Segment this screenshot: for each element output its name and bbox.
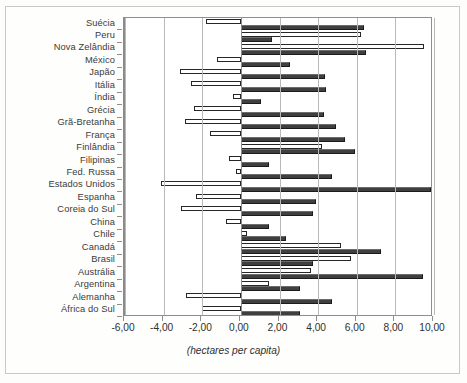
bar-serie-escura	[241, 62, 290, 67]
bar-serie-clara	[180, 69, 241, 74]
x-axis-title: (hectares per capita)	[0, 345, 467, 356]
bar-serie-clara	[181, 206, 241, 211]
y-axis-label: México	[85, 55, 115, 65]
y-tick-mark	[117, 67, 122, 68]
y-tick-mark	[117, 229, 122, 230]
y-tick-mark	[117, 204, 122, 205]
gridline-6,00	[357, 18, 358, 315]
bar-serie-escura	[241, 112, 324, 117]
bar-serie-escura	[241, 87, 326, 92]
bar-serie-escura	[241, 137, 345, 142]
gridline-2,00	[280, 18, 281, 315]
x-tick-4,00	[316, 316, 317, 321]
bar-serie-escura	[241, 187, 431, 192]
bar-serie-clara	[185, 119, 241, 124]
y-tick-mark	[117, 216, 122, 217]
y-axis-label: Espanha	[78, 192, 115, 202]
x-tick-2,00	[278, 316, 279, 321]
x-tick-label: -4,00	[150, 322, 173, 333]
bar-serie-clara	[186, 293, 241, 298]
x-tick-label: -6,00	[111, 322, 134, 333]
bar-serie-escura	[241, 50, 367, 55]
bar-serie-clara	[241, 44, 424, 49]
bar-serie-clara	[241, 144, 322, 149]
bar-serie-escura	[241, 162, 269, 167]
bar-serie-escura	[241, 124, 337, 129]
y-tick-mark	[117, 129, 122, 130]
y-tick-mark	[117, 304, 122, 305]
chart-figure: SuéciaPeruNova ZelândiaMéxicoJapãoItália…	[0, 0, 467, 383]
y-axis-label: China	[90, 217, 115, 227]
bars-layer	[125, 18, 431, 315]
bar-serie-escura	[241, 37, 272, 42]
y-tick-mark	[117, 54, 122, 55]
y-tick-mark	[117, 291, 122, 292]
x-tick-label: 6,00	[345, 322, 365, 333]
y-axis-label: Grécia	[87, 105, 115, 115]
y-tick-mark	[117, 254, 122, 255]
gridline-10,00	[434, 18, 435, 315]
x-tick--6,00	[123, 316, 124, 321]
gridline-0,00	[241, 18, 242, 315]
y-axis-label: Alemanha	[72, 292, 115, 302]
y-tick-mark	[117, 117, 122, 118]
bar-serie-clara	[194, 106, 241, 111]
x-tick-10,00	[432, 316, 433, 321]
bar-serie-clara	[233, 94, 241, 99]
gridline-4,00	[318, 18, 319, 315]
y-axis-category-labels: SuéciaPeruNova ZelândiaMéxicoJapãoItália…	[0, 17, 120, 316]
bar-serie-escura	[241, 74, 325, 79]
bar-serie-escura	[241, 261, 313, 266]
x-axis-title-text: (hectares per capita)	[187, 345, 280, 356]
y-tick-mark	[117, 142, 122, 143]
x-tick-label: 4,00	[306, 322, 326, 333]
bar-serie-clara	[210, 131, 241, 136]
x-tick-8,00	[393, 316, 394, 321]
y-tick-mark	[117, 92, 122, 93]
y-tick-mark	[117, 167, 122, 168]
bar-serie-clara	[161, 181, 241, 186]
y-tick-mark	[117, 266, 122, 267]
bar-serie-clara	[191, 81, 241, 86]
y-tick-mark	[117, 241, 122, 242]
bar-serie-escura	[241, 224, 269, 229]
bar-serie-clara	[241, 243, 341, 248]
y-tick-mark	[117, 42, 122, 43]
y-axis-label: Finlândia	[76, 142, 115, 152]
y-axis-label: Brasil	[91, 254, 115, 264]
y-axis-label: Fed. Russa	[66, 167, 115, 177]
x-tick--4,00	[162, 316, 163, 321]
y-axis-label: Chile	[93, 229, 115, 239]
y-axis-label: Nova Zelândia	[54, 42, 115, 52]
y-tick-mark	[117, 79, 122, 80]
bar-serie-clara	[241, 256, 351, 261]
plot-area	[123, 17, 432, 316]
x-tick-label: 8,00	[383, 322, 403, 333]
bar-serie-escura	[241, 286, 300, 291]
y-axis-label: Peru	[95, 30, 115, 40]
y-tick-mark	[117, 316, 122, 317]
bar-serie-escura	[241, 211, 313, 216]
bar-serie-clara	[217, 57, 241, 62]
x-tick-6,00	[355, 316, 356, 321]
x-tick--2,00	[200, 316, 201, 321]
gridline--6,00	[125, 18, 126, 315]
y-tick-mark	[117, 104, 122, 105]
y-tick-mark	[117, 179, 122, 180]
x-tick-label: 2,00	[268, 322, 288, 333]
y-axis-label: Grã-Bretanha	[57, 117, 115, 127]
y-axis-label: Canadá	[82, 242, 115, 252]
bar-serie-clara	[202, 306, 241, 311]
bar-serie-escura	[241, 311, 300, 315]
y-axis-label: Coreia do Sul	[57, 204, 115, 214]
x-axis-tick-labels: -6,00-4,00-2,000,002,004,006,008,0010,00	[0, 322, 467, 338]
y-axis-label: Suécia	[86, 18, 115, 28]
y-tick-mark	[117, 29, 122, 30]
gridline--4,00	[164, 18, 165, 315]
y-axis-label: Japão	[89, 67, 115, 77]
y-axis-label: Estados Unidos	[48, 179, 115, 189]
y-tick-mark	[117, 279, 122, 280]
bar-serie-escura	[241, 99, 261, 104]
x-tick-label: 10,00	[419, 322, 445, 333]
y-axis-label: França	[85, 130, 115, 140]
